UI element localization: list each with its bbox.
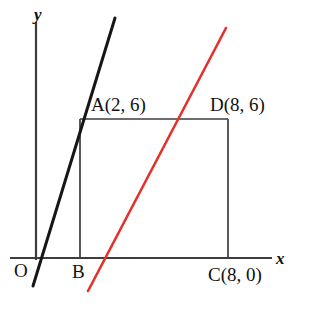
black-line <box>33 18 115 286</box>
point-label-D: D(8, 6) <box>210 95 265 114</box>
coordinate-diagram: y x O A(2, 6) B C(8, 0) D(8, 6) <box>0 0 310 318</box>
point-label-C: C(8, 0) <box>208 265 262 284</box>
diagram-canvas <box>0 0 310 318</box>
y-axis-label: y <box>34 6 42 23</box>
point-label-A: A(2, 6) <box>91 95 146 114</box>
point-label-B: B <box>72 262 85 281</box>
red-line <box>88 28 226 291</box>
origin-label: O <box>14 261 28 280</box>
x-axis-label: x <box>276 250 285 267</box>
